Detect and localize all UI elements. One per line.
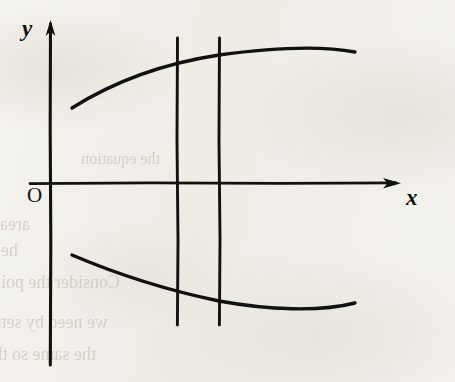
- y-axis-line: [50, 24, 51, 365]
- y-axis-label: y: [22, 16, 32, 42]
- vertical-line-left: [177, 38, 178, 325]
- lower-curve: [72, 255, 355, 309]
- x-axis-label: x: [406, 185, 418, 211]
- vertical-line-right: [219, 38, 220, 325]
- upper-curve: [72, 48, 355, 108]
- scanned-figure-page: area marks this side by a filling thehe …: [0, 0, 455, 382]
- graph-drawing: [0, 0, 455, 382]
- x-axis-line: [30, 183, 396, 184]
- origin-label: O: [27, 183, 42, 208]
